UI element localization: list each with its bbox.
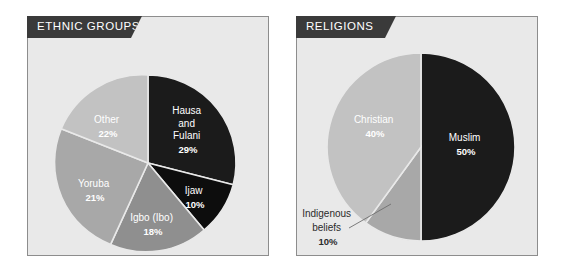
panel-religions: RELIGIONS Muslim 50% Christian [296,16,538,256]
pie-svg-religions: Muslim 50% Christian 40% Indigenous beli… [297,17,537,255]
pie-chart-ethnic-groups: Hausa and Fulani 29% Ijaw 10% Igbo (Ibo)… [28,17,268,255]
pie-svg-ethnic-groups: Hausa and Fulani 29% Ijaw 10% Igbo (Ibo)… [28,17,268,255]
slice-label-indigenous-beliefs: Indigenous beliefs 10% [302,208,354,247]
figure-two-pie-charts: ETHNIC GROUPS Hausa and Fulani [0,0,564,277]
pie-chart-religions: Muslim 50% Christian 40% Indigenous beli… [297,17,537,255]
panel-ethnic-groups: ETHNIC GROUPS Hausa and Fulani [27,16,269,256]
